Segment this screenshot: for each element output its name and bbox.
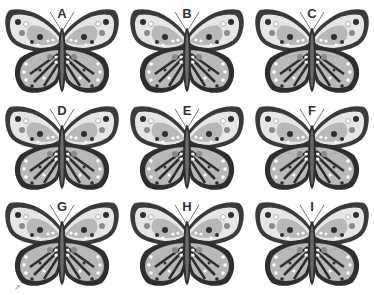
butterfly-label: H [125,199,249,214]
butterfly-label: B [125,6,249,21]
butterfly-g[interactable]: G [0,193,124,291]
butterfly-a[interactable]: A [0,0,124,98]
butterfly-label: C [250,6,374,21]
butterfly-f[interactable]: F [250,97,374,195]
butterfly-grid: A B C D E F G H I [0,0,374,295]
butterfly-label: I [250,199,374,214]
butterfly-h[interactable]: H [125,193,249,291]
butterfly-i[interactable]: I [250,193,374,291]
butterfly-label: D [0,103,124,118]
corner-mark: ↗ [14,283,21,292]
butterfly-e[interactable]: E [125,97,249,195]
butterfly-label: E [125,103,249,118]
butterfly-label: G [0,199,124,214]
butterfly-d[interactable]: D [0,97,124,195]
butterfly-label: A [0,6,124,21]
butterfly-label: F [250,103,374,118]
butterfly-b[interactable]: B [125,0,249,98]
butterfly-c[interactable]: C [250,0,374,98]
